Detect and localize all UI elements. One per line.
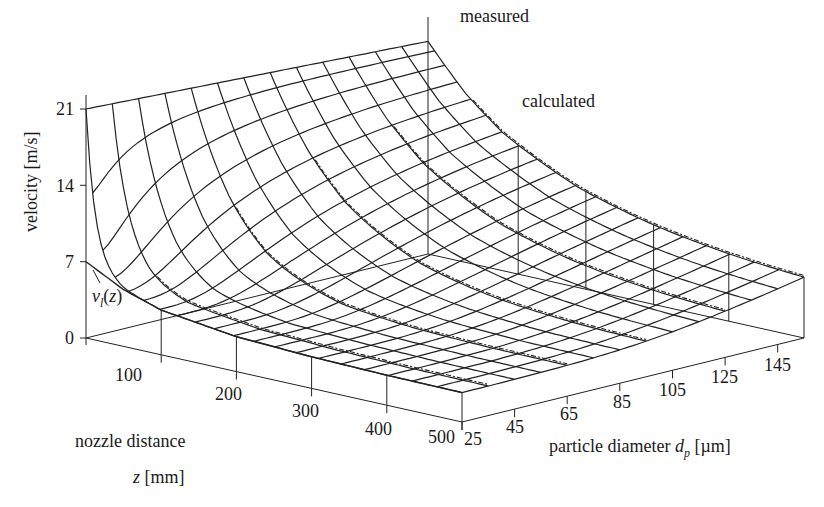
surface-line-const-z <box>234 186 576 336</box>
surface-line-const-z <box>254 197 596 341</box>
x-axis-label: nozzle distance <box>75 432 185 450</box>
v-tick-21: 21 <box>56 100 74 118</box>
surface-line-const-dp <box>112 104 488 386</box>
surface-line-const-z <box>103 65 445 250</box>
z-tick-500: 500 <box>428 428 455 446</box>
dp-unit: [µm] <box>694 436 730 456</box>
z-tick-100: 100 <box>115 366 142 384</box>
x-axis-symbol: z [mm] <box>133 468 185 486</box>
surface-line-const-z <box>275 208 617 347</box>
vl-suffix: (z) <box>103 286 122 306</box>
surface-line-const-z <box>462 277 804 393</box>
surface-line-const-z <box>86 41 428 109</box>
vl-symbol: v <box>92 286 100 306</box>
dp-axis-label: particle diameter dp [µm] <box>549 437 731 459</box>
annotation-measured: measured <box>460 7 529 25</box>
y-axis-label: velocity [m/s] <box>22 132 40 232</box>
liquid-velocity-curve <box>86 262 462 393</box>
v-tick-0: 0 <box>65 329 74 347</box>
floor-right-edge <box>428 254 804 338</box>
z-tick-400: 400 <box>365 420 392 438</box>
annotation-calculated: calculated <box>522 92 595 110</box>
chart-figure: 21 14 7 0 velocity [m/s] 100 200 300 400… <box>0 0 824 507</box>
dp-tick-45: 45 <box>506 418 524 436</box>
dp-axis-text: particle diameter <box>549 436 670 456</box>
measured-curve <box>473 100 804 275</box>
dp-tick-25: 25 <box>464 430 482 448</box>
dp-symbol: d <box>675 436 684 456</box>
annotation-vl: vl(z) <box>92 287 122 309</box>
dp-tick-85: 85 <box>613 393 631 411</box>
z-tick-200: 200 <box>215 385 242 403</box>
surface-line-const-dp <box>270 73 646 342</box>
dp-tick-145: 145 <box>764 356 791 374</box>
surface-line-const-z <box>364 246 706 370</box>
dp-tick-65: 65 <box>560 405 578 423</box>
surface-line-const-z <box>195 159 537 322</box>
surface-line-const-z <box>115 82 457 277</box>
v-tick-14: 14 <box>56 177 74 195</box>
surface-line-const-dp <box>297 67 673 331</box>
dp-tick-125: 125 <box>711 368 738 386</box>
dp-subscript: p <box>684 446 690 460</box>
z-unit: [mm] <box>145 467 185 487</box>
surface-line-const-z <box>93 51 435 193</box>
surface-line-const-dp <box>165 93 541 372</box>
v-tick-7: 7 <box>65 253 74 271</box>
dp-tick-105: 105 <box>659 381 686 399</box>
z-tick-300: 300 <box>292 402 319 420</box>
surface-line-const-dp <box>218 83 594 358</box>
z-symbol: z <box>133 467 140 487</box>
